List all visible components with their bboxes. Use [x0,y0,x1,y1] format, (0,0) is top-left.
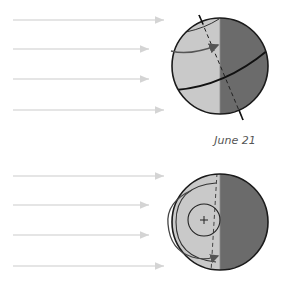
bottom-sun-rays [13,176,164,266]
sunlit-hemisphere [170,15,220,120]
date-caption: June 21 [205,134,265,147]
axis-tip-south [239,110,243,120]
night-hemisphere [220,172,275,274]
polar-view-globe [168,172,275,274]
top-sun-rays [13,20,164,110]
side-view-globe [170,15,275,120]
sunlit-hemisphere [170,172,220,274]
night-hemisphere [220,15,275,120]
